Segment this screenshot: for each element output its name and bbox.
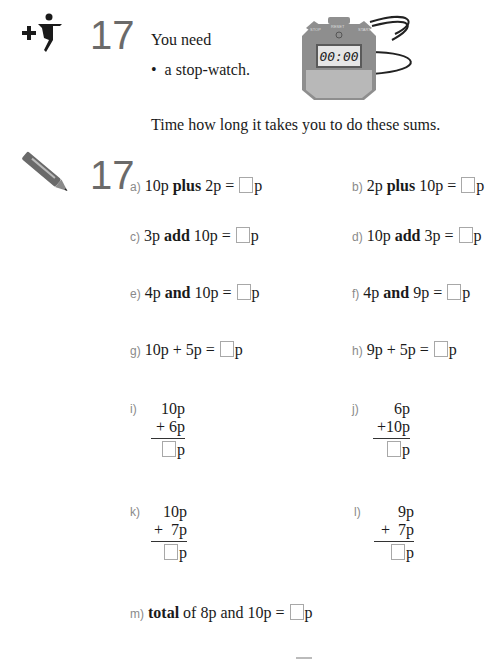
operator-word: add [164, 227, 190, 244]
answer-box[interactable] [236, 227, 250, 243]
answer-box[interactable] [461, 177, 475, 193]
question-c: c) 3p add 10p = p [130, 227, 259, 244]
unit: p [179, 544, 187, 561]
question-text: 9p + 5p = [367, 341, 433, 358]
unit: p [251, 227, 259, 244]
answer-box[interactable] [447, 284, 461, 300]
question-f: f) 4p and 9p = p [352, 284, 470, 301]
bullet: • [151, 61, 165, 78]
section-number-top: 17 [90, 15, 135, 55]
question-b: b) 2p plus 10p = p [352, 177, 484, 194]
unit: p [406, 544, 414, 561]
question-a: a) 10p plus 2p = p [130, 177, 262, 194]
question-text: 10p = [190, 284, 235, 301]
sum-rule [151, 541, 187, 542]
unit: p [462, 284, 470, 301]
requirement-item: • a stop-watch. [151, 62, 250, 78]
answer-box[interactable] [220, 341, 234, 357]
unit: p [254, 177, 262, 194]
unit: p [305, 604, 313, 621]
question-h: h) 9p + 5p = p [352, 341, 457, 358]
svg-text:START: START [358, 27, 371, 32]
question-text: 4p [145, 284, 165, 301]
vertical-sum-k: 10p + 7p p [151, 503, 187, 562]
answer-box[interactable] [290, 604, 304, 620]
question-text: 9p = [409, 284, 446, 301]
vertical-sum-i: 10p + 6p p [151, 400, 185, 459]
question-text: of 8p and 10p = [179, 604, 288, 621]
question-text: 10p = [190, 227, 235, 244]
operator-word: plus [173, 177, 201, 194]
section-number-written: 17 [90, 155, 135, 195]
question-text: 2p [367, 177, 387, 194]
unit: p [476, 177, 484, 194]
question-text: 10p + 5p = [145, 341, 219, 358]
unit: p [235, 341, 243, 358]
unit: p [177, 441, 185, 458]
question-text: 10p [145, 177, 173, 194]
instruction-text: Time how long it takes you to do these s… [151, 117, 440, 133]
sum-rule [151, 438, 185, 439]
question-text: 3p [144, 227, 164, 244]
question-label-l: l) [354, 506, 361, 518]
unit: p [402, 441, 410, 458]
question-label: g) [130, 344, 141, 358]
answer-box[interactable] [459, 227, 473, 243]
sum-rule [373, 438, 410, 439]
question-text: 10p [367, 227, 395, 244]
addend-top: 10p [151, 400, 185, 418]
svg-text:STOP: STOP [310, 27, 321, 32]
pencil-icon [20, 148, 72, 198]
answer-box[interactable] [237, 284, 251, 300]
operator-word: total [148, 604, 179, 621]
operator-word: plus [387, 177, 415, 194]
question-label: b) [352, 180, 363, 194]
question-text: 10p = [415, 177, 460, 194]
question-label-j: j) [352, 403, 359, 415]
addend-bottom: + 7p [151, 521, 187, 539]
question-g: g) 10p + 5p = p [130, 341, 243, 358]
vertical-sum-j: 6p +10p p [373, 400, 410, 459]
stopwatch-image: STOP RESET START 00:00 [300, 12, 500, 102]
question-label: a) [130, 180, 141, 194]
question-text: 4p [363, 284, 383, 301]
question-d: d) 10p add 3p = p [352, 227, 482, 244]
operator-word: add [395, 227, 421, 244]
addend-bottom: +10p [373, 418, 410, 436]
vertical-sum-l: 9p + 7p p [374, 503, 414, 562]
question-label: d) [352, 230, 363, 244]
addend-bottom: + 7p [374, 521, 414, 539]
addend-top: 6p [373, 400, 410, 418]
answer-box[interactable] [239, 177, 253, 193]
question-label: m) [130, 607, 144, 621]
question-label-i: i) [130, 403, 137, 415]
unit: p [252, 284, 260, 301]
question-text: 2p = [201, 177, 238, 194]
answer-box[interactable] [434, 341, 448, 357]
sum-rule [374, 541, 414, 542]
operator-word: and [383, 284, 409, 301]
question-label: c) [130, 230, 140, 244]
addend-top: 10p [151, 503, 187, 521]
addend-bottom: + 6p [151, 418, 185, 436]
question-label: e) [130, 287, 141, 301]
addend-top: 9p [374, 503, 414, 521]
answer-box[interactable] [162, 441, 176, 457]
question-label-k: k) [130, 506, 140, 518]
question-label: h) [352, 344, 363, 358]
question-label: f) [352, 287, 359, 301]
requirement-label: a stop-watch. [165, 61, 250, 78]
answer-box[interactable] [164, 544, 178, 560]
answer-box[interactable] [391, 544, 405, 560]
question-text: 3p = [420, 227, 457, 244]
operator-word: and [165, 284, 191, 301]
stopwatch-display: 00:00 [319, 49, 358, 64]
question-m: m) total of 8p and 10p = p [130, 604, 313, 621]
figure-plus-icon [22, 12, 64, 54]
page-fragment-edge [296, 657, 312, 659]
question-e: e) 4p and 10p = p [130, 284, 260, 301]
answer-box[interactable] [387, 441, 401, 457]
svg-text:RESET: RESET [331, 24, 345, 29]
unit: p [474, 227, 482, 244]
you-need-text: You need [151, 32, 211, 48]
